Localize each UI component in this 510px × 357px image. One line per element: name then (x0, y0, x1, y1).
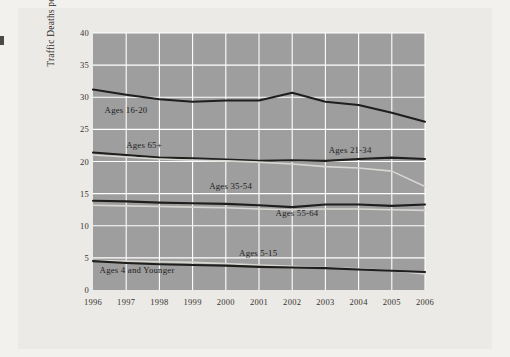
x-tick-label: 1999 (183, 297, 201, 307)
series-label: Ages 4 and Younger (100, 265, 175, 275)
x-tick-label: 2002 (283, 297, 301, 307)
y-tick-label: 25 (59, 124, 89, 134)
x-tick-label: 1997 (117, 297, 135, 307)
y-tick-label: 30 (59, 92, 89, 102)
x-tick-label: 1996 (84, 297, 102, 307)
page-edge-mark (0, 36, 4, 45)
x-tick-label: 1998 (150, 297, 168, 307)
x-tick-label: 2005 (383, 297, 401, 307)
series-label: Ages 16-20 (105, 105, 148, 115)
y-tick-label: 35 (59, 60, 89, 70)
y-tick-label: 40 (59, 28, 89, 38)
x-tick-label: 2001 (250, 297, 268, 307)
y-tick-label: 20 (59, 157, 89, 167)
x-tick-label: 2006 (416, 297, 434, 307)
y-axis-ticks: 0510152025303540 (57, 33, 89, 290)
series-line (93, 153, 425, 161)
series-label: Ages 65+ (126, 140, 162, 150)
x-axis-ticks: 1996199719981999200020012002200320042005… (93, 297, 425, 313)
plot-area: Ages 16-20Ages 21-34Ages 65+Ages 35-54Ag… (93, 33, 425, 290)
series-line (93, 155, 425, 186)
series-label: Ages 35-54 (209, 181, 252, 191)
chart-page: Traffic Deaths per 100,000 Population 05… (0, 0, 510, 357)
y-tick-label: 5 (59, 253, 89, 263)
series-label: Ages 21-34 (329, 145, 372, 155)
y-tick-label: 15 (59, 189, 89, 199)
y-tick-label: 0 (59, 285, 89, 295)
y-axis-title: Traffic Deaths per 100,000 Population (46, 0, 56, 100)
series-label: Ages 55-64 (276, 208, 319, 218)
y-tick-label: 10 (59, 221, 89, 231)
x-tick-label: 2003 (316, 297, 334, 307)
x-tick-label: 2000 (217, 297, 235, 307)
series-label: Ages 5-15 (239, 248, 277, 258)
x-tick-label: 2004 (349, 297, 367, 307)
